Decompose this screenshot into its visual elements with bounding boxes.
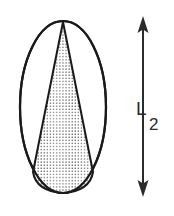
figure-container: L 2 [0, 0, 174, 216]
dimension-label-subscript: 2 [149, 115, 158, 134]
dimension-label-main: L [136, 98, 147, 119]
technical-diagram: L 2 [0, 0, 174, 216]
